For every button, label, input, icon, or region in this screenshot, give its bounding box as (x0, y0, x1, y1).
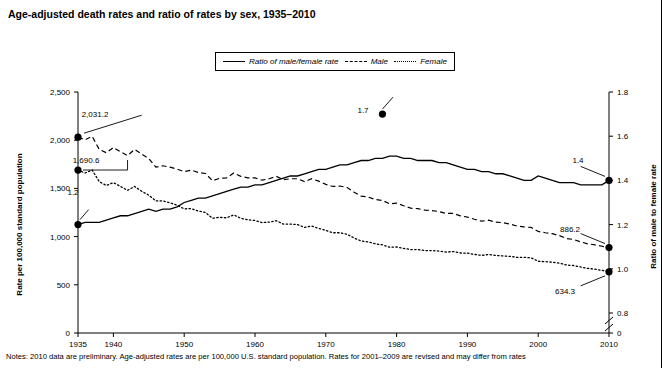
ratio-peak-label: 1.7 (357, 106, 369, 115)
y-tick-label-right: 1.8 (617, 88, 629, 97)
series-line-female (78, 170, 609, 272)
female-start-label: 1,690.6 (73, 156, 100, 165)
ratio-end-label: 1.4 (572, 156, 584, 165)
data-point-marker (74, 221, 81, 228)
annotation-leader-line (581, 234, 605, 244)
male-end-label: 886.2 (560, 225, 581, 234)
data-point-marker (74, 166, 81, 173)
x-tick-label: 1960 (246, 340, 264, 349)
y-tick-label-right: 1.2 (617, 221, 629, 230)
data-point-marker (74, 134, 81, 141)
y-tick-label-right: 1.6 (617, 132, 629, 141)
x-tick-label: 1935 (69, 340, 87, 349)
annotation-leader-line (80, 210, 89, 220)
chart-notes: Notes: 2010 data are preliminary. Age-ad… (6, 352, 526, 361)
y-tick-label-left: 1,000 (50, 233, 71, 242)
x-tick-label: 1950 (175, 340, 193, 349)
x-tick-label: 2010 (600, 340, 618, 349)
y-tick-label-left: 500 (57, 281, 71, 290)
x-tick-label: 1970 (317, 340, 335, 349)
y-tick-label-left: 2,500 (50, 88, 71, 97)
ratio-start-label: 1.2 (67, 188, 79, 197)
y-tick-label-right: 0.8 (617, 309, 629, 318)
y-tick-label-left: 0 (66, 329, 71, 338)
male-start-label: 2,031.2 (82, 110, 109, 119)
data-point-marker (605, 177, 612, 184)
data-point-marker (605, 268, 612, 275)
series-line-male (78, 136, 609, 247)
annotation-leader-line (581, 276, 605, 286)
y-tick-label-right: 1.4 (617, 176, 629, 185)
y-tick-label-right: 1.0 (617, 265, 629, 274)
x-tick-label: 1990 (459, 340, 477, 349)
x-tick-label: 1980 (388, 340, 406, 349)
female-end-label: 634.3 (555, 287, 576, 296)
annotation-leader-line (581, 166, 605, 176)
chart-page: Age-adjusted death rates and ratio of ra… (0, 0, 662, 368)
data-point-marker (379, 111, 386, 118)
y-tick-label-right: 0 (617, 329, 622, 338)
data-point-marker (605, 244, 612, 251)
chart-plot-area: 05001,0001,5002,0002,50000.81.01.21.41.6… (0, 0, 662, 368)
y-tick-label-left: 2,000 (50, 136, 71, 145)
x-tick-label: 1940 (105, 340, 123, 349)
annotation-leader-line (382, 97, 393, 109)
axis-left-and-bottom (78, 92, 609, 333)
x-tick-label: 2000 (529, 340, 547, 349)
